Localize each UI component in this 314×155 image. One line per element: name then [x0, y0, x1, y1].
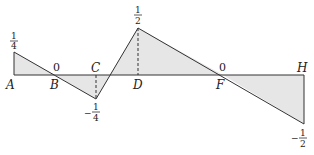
value-label-H: − 1 2 [291, 128, 307, 149]
label-C: C [91, 61, 100, 75]
svg-text:2: 2 [300, 139, 306, 149]
value-label-A: 1 4 [10, 31, 18, 51]
svg-text:4: 4 [11, 41, 17, 51]
svg-text:−: − [84, 108, 92, 118]
label-F: F [215, 78, 225, 92]
label-B: B [49, 78, 59, 92]
value-label-D: 1 2 [134, 5, 142, 26]
zero-label-B: 0 [53, 61, 60, 74]
svg-text:1: 1 [11, 31, 17, 41]
svg-text:4: 4 [93, 113, 99, 123]
label-H: H [296, 61, 308, 75]
label-D: D [132, 78, 143, 92]
region-B-C [55, 75, 110, 99]
label-A: A [5, 78, 15, 92]
svg-text:−: − [291, 133, 299, 143]
value-label-C: − 1 4 [84, 102, 100, 123]
svg-text:1: 1 [300, 128, 306, 138]
zero-label-F: 0 [219, 61, 226, 74]
region-D [110, 28, 223, 75]
shear-diagram: A B C D F H 0 0 1 4 − 1 4 1 2 − 1 2 [0, 0, 314, 155]
svg-text:1: 1 [93, 102, 99, 112]
svg-text:1: 1 [135, 5, 141, 15]
svg-text:2: 2 [135, 16, 141, 26]
